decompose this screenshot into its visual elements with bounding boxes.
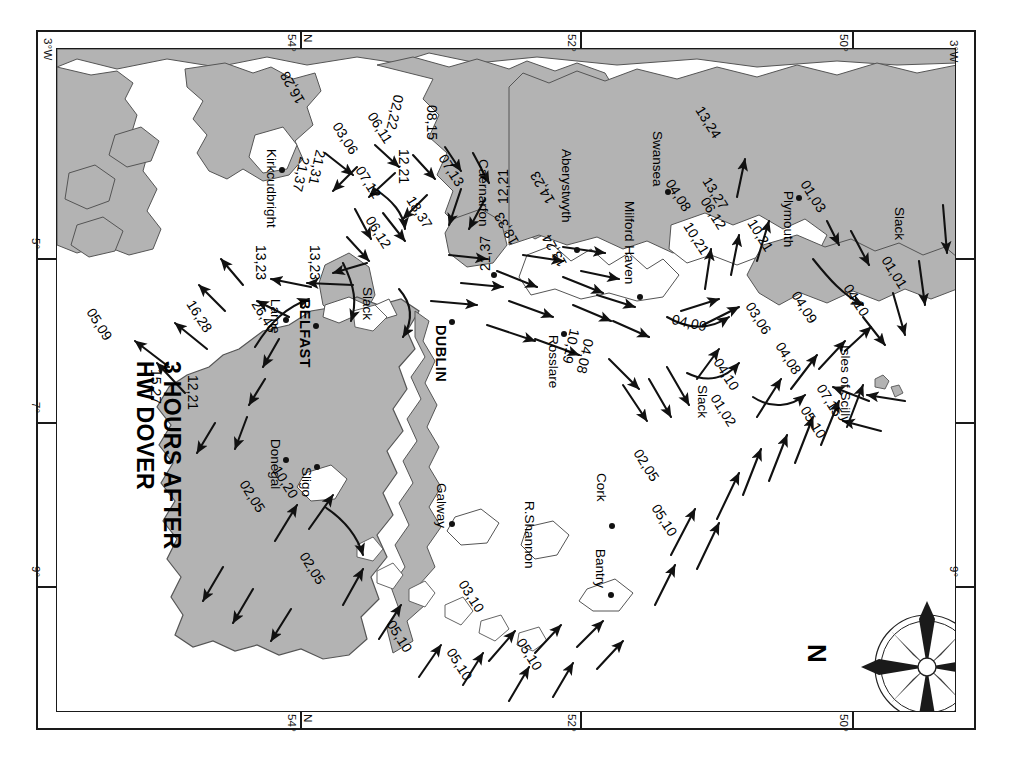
place-label-galway: Galway — [434, 483, 449, 528]
place-label-r-shannon: R.Shannon — [522, 501, 537, 569]
tick-right — [956, 422, 974, 424]
tick-left — [38, 258, 56, 260]
place-label-cork: Cork — [594, 473, 609, 502]
rate-label: 12,21 — [185, 375, 201, 410]
tick-left — [38, 586, 56, 588]
rate-label: 08,15 — [424, 105, 440, 140]
coord-top-50: 50° — [838, 34, 850, 52]
coord-top-52: 52° — [566, 34, 578, 52]
city-dot-plymouth — [796, 195, 802, 201]
tick-bottom — [852, 712, 854, 728]
city-dot-milford-haven — [637, 294, 643, 300]
coord-bottom-n: N — [302, 714, 314, 723]
coord-bottom-50: 50° — [838, 714, 850, 732]
coord-top-n: N — [302, 34, 314, 43]
city-dot-dublin — [449, 319, 455, 325]
rate-label: 21,37 — [477, 236, 493, 271]
slack-label: Slack — [695, 385, 710, 418]
tick-left — [38, 422, 56, 424]
rate-label: 13,23 — [253, 245, 269, 280]
compass-north-label: N — [801, 644, 832, 663]
place-label-belfast: BELFAST — [297, 299, 313, 368]
place-label-dublin: DUBLIN — [433, 325, 449, 382]
tick-bottom — [580, 712, 582, 728]
place-label-swansea: Swansea — [650, 131, 665, 187]
city-dot-bantry — [608, 592, 614, 598]
coord-right-9: 9° — [948, 566, 960, 577]
slack-label: Slack — [892, 207, 907, 240]
place-label-aberystwyth: Aberystwyth — [559, 149, 574, 223]
tick-top — [580, 32, 582, 48]
coord-bottom-52: 52° — [566, 714, 578, 732]
place-label-plymouth: Plymouth — [781, 191, 796, 247]
city-dot-sligo — [314, 464, 320, 470]
rate-label: 13,23 — [307, 245, 323, 280]
compass-rose-icon — [857, 597, 956, 712]
coord-top-3w: 3°W — [42, 38, 54, 60]
city-dot-belfast — [313, 323, 319, 329]
coord-left-5: 5° — [30, 238, 42, 249]
coord-bottom-54: 54° — [286, 714, 298, 732]
city-dot-larne — [283, 317, 289, 323]
map-inner-border: 3 HOURS AFTER HW DOVER Kirkcudbright Cae… — [56, 48, 956, 712]
tidal-stream-atlas-page: 3 HOURS AFTER HW DOVER Kirkcudbright Cae… — [0, 0, 1013, 761]
tick-right — [956, 586, 974, 588]
coord-top-54: 54° — [286, 34, 298, 52]
place-label-caernarfon: Caernarfon — [476, 159, 491, 227]
city-dot-caernarfon — [491, 272, 497, 278]
city-dot-donegal — [283, 457, 289, 463]
coord-left-7: 7° — [30, 402, 42, 413]
place-label-bantry: Bantry — [593, 549, 608, 588]
city-dot-galway — [449, 521, 455, 527]
rate-label: 12,21 — [495, 169, 511, 204]
place-label-kirkcudbright: Kirkcudbright — [264, 149, 279, 228]
slack-label: Slack — [360, 287, 375, 320]
city-dot-aberystwyth — [574, 247, 580, 253]
place-label-rosslare: Rosslare — [546, 335, 561, 388]
rate-label: 15,27 — [148, 369, 164, 404]
tick-top — [852, 32, 854, 48]
place-label-milford-haven: Milford Haven — [622, 201, 637, 284]
city-dot-cork — [609, 523, 615, 529]
tick-right — [956, 258, 974, 260]
rate-label: 12,21 — [396, 149, 412, 184]
city-dot-kirkcudbright — [279, 167, 285, 173]
coord-right-3w: 3°W — [948, 40, 960, 62]
coord-left-9: 9° — [30, 566, 42, 577]
